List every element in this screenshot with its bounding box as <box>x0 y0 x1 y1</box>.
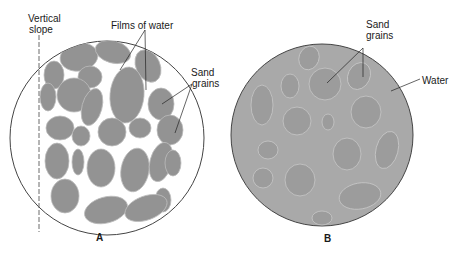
panel-a-letter: A <box>96 232 103 243</box>
panel-b-letter: B <box>324 233 331 244</box>
vertical-slope-label-line1: Vertical <box>28 13 61 24</box>
sand-grains-a-label-line2: grains <box>192 78 219 89</box>
films-of-water-label: Films of water <box>111 20 173 31</box>
panel-b-saturated-sand <box>231 43 420 226</box>
sand-grains-b-label-line1: Sand <box>366 19 389 30</box>
sand-grains-a-label-line1: Sand <box>191 67 214 78</box>
panel-a-moist-sand <box>10 30 204 235</box>
vertical-slope-label-line2: slope <box>29 24 53 35</box>
water-label: Water <box>422 75 448 86</box>
sand-grains-b-label-line2: grains <box>366 30 393 41</box>
